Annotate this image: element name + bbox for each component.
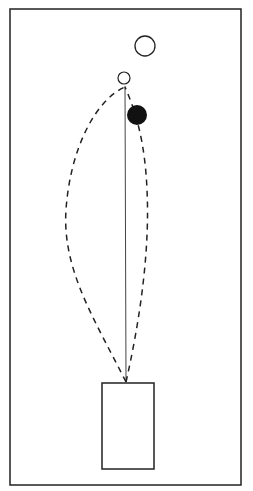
right-dashed-path <box>125 87 148 382</box>
straight-path-line <box>125 86 126 382</box>
left-dashed-path <box>66 87 126 382</box>
box <box>102 383 154 469</box>
filled-circle <box>127 105 147 125</box>
small-open-circle <box>118 72 130 84</box>
diagram-canvas <box>0 0 253 491</box>
top-open-circle <box>135 36 155 56</box>
